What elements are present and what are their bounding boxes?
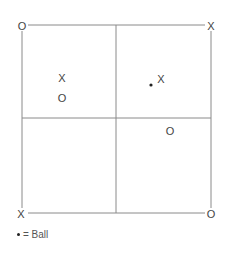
mark-o-bottom-right: O (166, 125, 175, 137)
ball-icon (149, 83, 152, 86)
corner-top-left-mark: O (18, 20, 27, 32)
court-diagram: O X X O XOXO (0, 0, 226, 254)
corner-bottom-right-mark: O (207, 208, 216, 220)
mark-o-top-left: O (58, 92, 67, 104)
corner-bottom-left-mark: X (17, 208, 25, 220)
mark-x-top-right: X (157, 73, 165, 85)
legend-text: = Ball (23, 229, 48, 240)
corner-top-right-mark: X (207, 20, 215, 32)
ball-legend-icon (17, 233, 20, 236)
legend: = Ball (17, 229, 48, 240)
mark-x-top-left: X (58, 72, 66, 84)
